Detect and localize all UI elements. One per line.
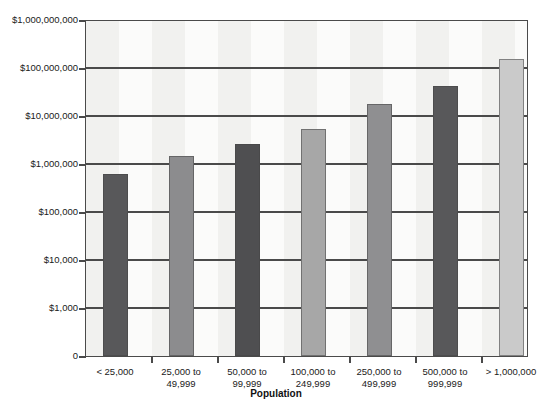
y-tick-label: $100,000 [0,207,78,217]
x-category-line1: 250,000 to [341,366,417,378]
x-category-label-25000-49999: 25,000 to 49,999 [143,366,219,389]
x-tick-mark [415,357,417,363]
y-tick-label: $10,000 [0,255,78,265]
x-category-line1: < 25,000 [77,366,153,378]
bar-gt-1000000 [499,59,524,356]
x-category-line1: 100,000 to [275,366,351,378]
x-category-label-500000-999999: 500,000 to 999,999 [407,366,483,389]
x-category-label-lt-25000: < 25,000 [77,366,153,378]
x-category-line2: 49,999 [143,378,219,390]
bar-250000-499999 [367,104,392,356]
x-category-line1: 500,000 to [407,366,483,378]
y-tick-label: $10,000,000 [0,111,78,121]
bar-chart: $1,000,000,000 $100,000,000 $10,000,000 … [0,0,545,406]
bar-500000-999999 [433,86,458,356]
bar-lt-25000 [103,174,128,356]
y-tick-label: $1,000 [0,303,78,313]
bar-50000-99999 [235,144,260,356]
gridline [86,67,527,69]
x-category-label-250000-499999: 250,000 to 499,999 [341,366,417,389]
x-tick-mark [151,357,153,363]
bar-25000-49999 [169,156,194,356]
gridline [86,115,527,117]
x-category-line2: 499,999 [341,378,417,390]
x-category-label-gt-1000000: > 1,000,000 [473,366,545,378]
x-category-line1: > 1,000,000 [473,366,545,378]
x-category-label-100000-249999: 100,000 to 249,999 [275,366,351,389]
x-tick-mark [481,357,483,363]
y-tick-label: $1,000,000,000 [0,15,78,25]
bar-100000-249999 [301,129,326,356]
x-axis-title: Population [236,388,316,399]
y-tick-label: 0 [0,351,78,361]
plot-area [85,20,528,357]
y-tick-label: $100,000,000 [0,63,78,73]
y-tick-label: $1,000,000 [0,159,78,169]
x-tick-mark [217,357,219,363]
x-tick-mark [283,357,285,363]
x-category-label-50000-99999: 50,000 to 99,999 [209,366,285,389]
x-tick-mark [349,357,351,363]
x-category-line1: 25,000 to [143,366,219,378]
x-category-line2: 999,999 [407,378,483,390]
x-category-line1: 50,000 to [209,366,285,378]
